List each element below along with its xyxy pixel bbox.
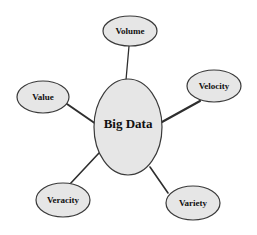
connector-velocity — [162, 101, 200, 122]
connector-value — [67, 104, 96, 124]
center-label: Big Data — [104, 116, 153, 131]
connector-variety — [150, 167, 168, 193]
velocity-label: Velocity — [199, 81, 230, 91]
value-label: Value — [32, 92, 54, 102]
node-value: Value — [17, 81, 69, 113]
node-variety: Variety — [166, 186, 220, 220]
volume-label: Volume — [115, 26, 144, 36]
node-velocity: Velocity — [187, 70, 241, 102]
big-data-diagram: VolumeVelocityValueVeracityVariety Big D… — [0, 0, 257, 235]
connector-volume — [126, 46, 129, 80]
variety-label: Variety — [179, 198, 208, 208]
veracity-label: Veracity — [47, 195, 80, 205]
connector-veracity — [70, 153, 99, 184]
node-volume: Volume — [103, 16, 157, 46]
node-veracity: Veracity — [36, 183, 90, 217]
center-node-big-data: Big Data — [94, 79, 162, 175]
